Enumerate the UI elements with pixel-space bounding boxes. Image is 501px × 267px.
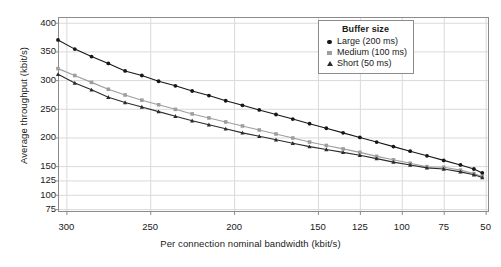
circle-marker-icon [324, 36, 335, 47]
plot-area [0, 0, 501, 267]
legend: Buffer size Large (200 ms) Medium (100 m… [318, 20, 414, 74]
legend-label-short: Short (50 ms) [337, 58, 392, 69]
legend-item-large: Large (200 ms) [324, 36, 407, 47]
square-marker-icon [324, 47, 335, 58]
legend-item-short: Short (50 ms) [324, 58, 407, 69]
legend-item-medium: Medium (100 ms) [324, 47, 407, 58]
legend-title: Buffer size [324, 24, 407, 34]
triangle-marker-icon [324, 58, 335, 69]
chart-figure: Average throughput (kbit/s) Per connecti… [0, 0, 501, 267]
legend-label-large: Large (200 ms) [337, 36, 398, 47]
legend-label-medium: Medium (100 ms) [337, 47, 407, 58]
